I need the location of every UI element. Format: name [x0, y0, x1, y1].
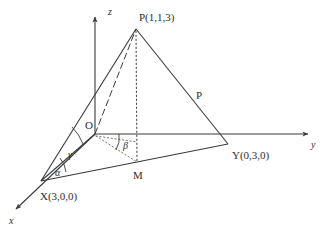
angle-arc-beta [116, 134, 119, 150]
vertex-y-label: Y(0,3,0) [232, 150, 269, 161]
geometry-figure: z y x O X(3,0,0) Y(0,3,0) P(1,1,3) M α β… [0, 0, 326, 235]
edge-o-p [95, 29, 136, 134]
edge-y-p [136, 29, 228, 144]
angle-alpha-label: α [55, 168, 60, 178]
plane-p-label: P [196, 90, 202, 101]
foot-m-label: M [133, 170, 143, 181]
vertex-x-label: X(3,0,0) [40, 191, 77, 202]
x-axis-label: x [9, 216, 13, 226]
origin-label: O [85, 120, 93, 131]
segment-p-m [136, 31, 137, 162]
angle-gamma-label: γ [68, 150, 72, 160]
apex-p-label: P(1,1,3) [139, 12, 174, 23]
z-axis-label: z [108, 7, 112, 17]
y-axis-label: y [311, 140, 315, 150]
edge-x-p [41, 29, 136, 181]
segment-o-my [96, 136, 137, 142]
angle-beta-label: β [123, 141, 128, 151]
